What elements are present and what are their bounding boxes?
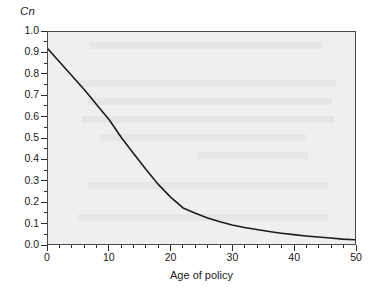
y-tick-major [41,202,47,203]
x-tick-label: 40 [288,252,300,263]
y-tick-label: 0.5 [24,132,39,143]
y-tick-label: 0.0 [24,239,39,250]
x-tick-label: 0 [44,252,50,263]
y-tick-minor [44,127,47,128]
y-tick-major [41,223,47,224]
y-tick-minor [44,41,47,42]
y-tick-minor [44,170,47,171]
y-tick-major [41,159,47,160]
x-tick-minor [244,245,245,248]
chart-figure: Cn 0.00.10.20.30.40.50.60.70.80.91.0 010… [0,0,376,292]
y-tick-minor [44,105,47,106]
y-tick-label: 0.3 [24,175,39,186]
x-tick-label: 10 [103,252,115,263]
x-tick-minor [145,245,146,248]
y-tick-major [41,73,47,74]
x-tick-minor [71,245,72,248]
x-tick-minor [195,245,196,248]
x-tick-minor [220,245,221,248]
x-tick-label: 20 [165,252,177,263]
x-tick-minor [182,245,183,248]
y-tick-label: 0.2 [24,196,39,207]
y-tick-major [41,180,47,181]
y-tick-major [41,31,47,32]
x-tick-minor [133,245,134,248]
y-tick-label: 0.8 [24,68,39,79]
x-tick-minor [84,245,85,248]
x-tick-minor [331,245,332,248]
x-axis-title: Age of policy [47,269,356,281]
y-tick-minor [44,84,47,85]
x-tick-label: 50 [350,252,362,263]
y-tick-label: 1.0 [24,25,39,36]
x-tick-minor [269,245,270,248]
y-tick-label: 0.9 [24,46,39,57]
y-tick-label: 0.4 [24,153,39,164]
y-tick-label: 0.1 [24,218,39,229]
x-tick-minor [281,245,282,248]
y-tick-label: 0.6 [24,111,39,122]
x-tick-minor [96,245,97,248]
y-tick-minor [44,63,47,64]
y-tick-major [41,138,47,139]
x-tick-label: 30 [227,252,239,263]
y-tick-minor [44,191,47,192]
y-tick-minor [44,148,47,149]
x-tick-minor [207,245,208,248]
y-tick-major [41,116,47,117]
x-tick-minor [306,245,307,248]
x-tick-minor [158,245,159,248]
y-tick-minor [44,234,47,235]
y-tick-major [41,52,47,53]
y-tick-minor [44,212,47,213]
x-tick-minor [121,245,122,248]
x-tick-minor [257,245,258,248]
x-tick-minor [343,245,344,248]
x-tick-minor [318,245,319,248]
y-axis-title: Cn [20,5,35,17]
x-tick-minor [59,245,60,248]
y-tick-label: 0.7 [24,89,39,100]
series-line-cn [48,32,355,244]
y-tick-major [41,95,47,96]
plot-area [47,31,356,245]
